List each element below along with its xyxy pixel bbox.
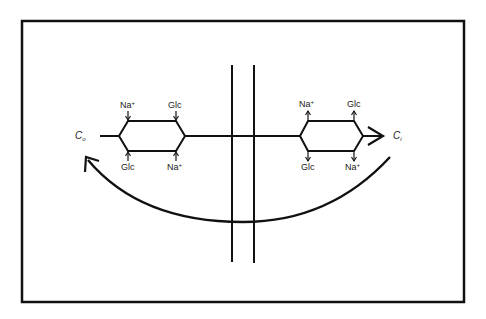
right-bottom-left-label: Glc (301, 162, 315, 172)
right-top-left-label: Na+ (299, 99, 315, 109)
left-top-left-label: Na+ (120, 100, 136, 110)
right-bottom-right-label: Na+ (345, 162, 361, 172)
left-carrier-hexagon (119, 121, 185, 151)
outside-concentration-label: Co (75, 130, 86, 142)
right-carrier-hexagon (300, 121, 363, 151)
inside-concentration-label: Ci (393, 130, 402, 142)
right-carrier: Na+ Glc Glc Na+ (299, 99, 363, 172)
diagram-canvas: Na+ Glc Glc Na+ Na+ Glc Glc Na+ Co Ci (0, 0, 486, 319)
right-top-right-label: Glc (347, 99, 361, 109)
left-top-right-label: Glc (168, 100, 182, 110)
membrane (232, 65, 254, 263)
left-bottom-right-label: Na+ (167, 162, 183, 172)
left-bottom-left-label: Glc (121, 162, 135, 172)
left-carrier: Na+ Glc Glc Na+ (119, 100, 185, 172)
